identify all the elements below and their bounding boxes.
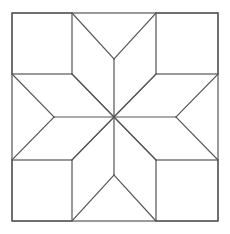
star-point-top-left-edge bbox=[72, 13, 114, 59]
diamond-edge-br-a bbox=[114, 117, 156, 160]
star-point-bottom-left-edge bbox=[72, 175, 114, 221]
star-point-right-bottom-edge bbox=[176, 117, 218, 160]
corner-square-bottom-right bbox=[156, 160, 218, 221]
diamond-edge-tr-a bbox=[114, 74, 156, 117]
star-point-bottom-right-edge bbox=[114, 175, 156, 221]
quilt-star-diagram bbox=[0, 0, 230, 234]
star-point-left-bottom-edge bbox=[12, 117, 54, 160]
diamond-edge-tl-a bbox=[72, 74, 114, 117]
corner-square-bottom-left bbox=[12, 160, 72, 221]
star-point-top-right-edge bbox=[114, 13, 156, 59]
corner-square-top-left bbox=[12, 13, 72, 74]
star-point-left-top-edge bbox=[12, 74, 54, 117]
diamond-edge-bl-a bbox=[72, 117, 114, 160]
star-point-right-top-edge bbox=[176, 74, 218, 117]
corner-square-top-right bbox=[156, 13, 218, 74]
